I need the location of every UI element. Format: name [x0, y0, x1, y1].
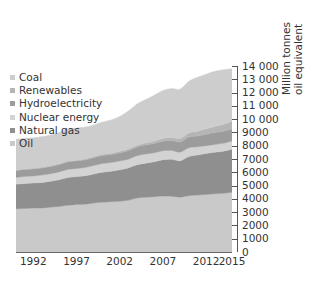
y-tick-4000 — [232, 199, 238, 200]
legend-swatch-nuclear-energy — [10, 115, 15, 120]
x-tick-label-2012: 2012 — [193, 256, 220, 267]
legend-swatch-coal — [10, 75, 15, 80]
legend-item-renewables: Renewables — [10, 84, 102, 97]
legend-label-nuclear-energy: Nuclear energy — [19, 112, 99, 123]
legend-swatch-oil — [10, 141, 15, 146]
y-tick-2000 — [232, 225, 238, 226]
legend-item-hydroelectricity: Hydroelectricity — [10, 97, 102, 110]
y-tick-label-4000: 4000 — [242, 193, 269, 203]
x-tick-label-2002: 2002 — [106, 256, 133, 267]
legend-item-oil: Oil — [10, 137, 102, 150]
x-tick-label-1997: 1997 — [63, 256, 90, 267]
y-tick-label-2000: 2000 — [242, 220, 269, 230]
y-axis-title-line2: oil equivalent — [293, 0, 305, 95]
y-tick-12000 — [232, 93, 238, 94]
y-tick-10000 — [232, 119, 238, 120]
legend-swatch-renewables — [10, 88, 15, 93]
y-tick-label-12000: 12 000 — [242, 87, 279, 97]
y-tick-11000 — [232, 106, 238, 107]
legend-label-hydroelectricity: Hydroelectricity — [19, 98, 102, 109]
y-tick-label-1000: 1000 — [242, 233, 269, 243]
y-tick-label-5000: 5000 — [242, 180, 269, 190]
y-tick-label-8000: 8000 — [242, 140, 269, 150]
y-tick-9000 — [232, 132, 238, 133]
y-axis-title-line1: Million tonnes — [281, 0, 293, 95]
y-tick-label-3000: 3000 — [242, 207, 269, 217]
legend-label-oil: Oil — [19, 138, 33, 149]
x-tick-label-2007: 2007 — [150, 256, 177, 267]
y-tick-label-11000: 11 000 — [242, 100, 279, 110]
y-tick-6000 — [232, 172, 238, 173]
y-tick-label-9000: 9000 — [242, 127, 269, 137]
legend-swatch-natural-gas — [10, 128, 15, 133]
y-tick-1000 — [232, 239, 238, 240]
x-tick-label-2015: 2015 — [219, 256, 246, 267]
chart-figure: Coal Renewables Hydroelectricity Nuclear… — [0, 0, 332, 287]
legend-item-natural-gas: Natural gas — [10, 124, 102, 137]
y-tick-5000 — [232, 186, 238, 187]
x-axis: 199219972002200720122015 — [0, 252, 240, 274]
legend-item-nuclear-energy: Nuclear energy — [10, 111, 102, 124]
y-tick-label-13000: 13 000 — [242, 74, 279, 84]
legend-label-natural-gas: Natural gas — [19, 125, 80, 136]
chart-legend: Coal Renewables Hydroelectricity Nuclear… — [10, 71, 102, 150]
legend-label-renewables: Renewables — [19, 85, 82, 96]
y-tick-7000 — [232, 159, 238, 160]
y-tick-3000 — [232, 212, 238, 213]
y-tick-label-10000: 10 000 — [242, 114, 279, 124]
y-tick-label-6000: 6000 — [242, 167, 269, 177]
x-tick-label-1992: 1992 — [20, 256, 47, 267]
y-tick-13000 — [232, 79, 238, 80]
legend-item-coal: Coal — [10, 71, 102, 84]
y-axis-title: Million tonnes oil equivalent — [281, 0, 321, 95]
y-tick-8000 — [232, 146, 238, 147]
y-tick-label-14000: 14 000 — [242, 61, 279, 71]
x-axis-line — [16, 252, 232, 253]
y-tick-label-7000: 7000 — [242, 154, 269, 164]
y-tick-14000 — [232, 66, 238, 67]
legend-swatch-hydroelectricity — [10, 101, 15, 106]
legend-label-coal: Coal — [19, 72, 42, 83]
